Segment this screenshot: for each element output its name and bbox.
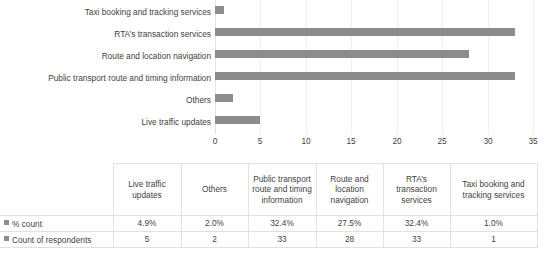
table-cell: 2.0% xyxy=(181,216,248,232)
x-tick-label: 20 xyxy=(392,136,401,147)
legend-swatch-icon xyxy=(4,236,9,241)
table-cell: 1.0% xyxy=(450,216,537,232)
category-label: Route and location navigation xyxy=(0,51,211,61)
category-label: Taxi booking and tracking services xyxy=(0,7,211,17)
table-cell: 5 xyxy=(113,232,181,248)
table-header-row: Live traffic updates Others Public trans… xyxy=(0,164,537,216)
gridline-0 xyxy=(215,0,216,134)
bar-route-and-location-navigation xyxy=(215,50,469,58)
table-row: Count of respondents 5 2 33 28 33 1 xyxy=(0,232,537,248)
bar-chart: Taxi booking and tracking services RTA’s… xyxy=(0,0,547,155)
table-cell: 27.5% xyxy=(316,216,383,232)
table-row-header-count-of-respondents: Count of respondents xyxy=(0,232,113,248)
x-axis-tick-labels: 0 5 10 15 20 25 30 35 xyxy=(215,136,533,152)
table-cell: 4.9% xyxy=(113,216,181,232)
gridline-5 xyxy=(260,0,261,134)
data-table: Live traffic updates Others Public trans… xyxy=(0,163,538,248)
x-tick-label: 10 xyxy=(301,136,310,147)
gridline-15 xyxy=(351,0,352,134)
bar-others xyxy=(215,94,233,102)
x-tick-label: 15 xyxy=(346,136,355,147)
table-column-header: RTA’s transaction services xyxy=(383,164,450,216)
category-label: Public transport route and timing inform… xyxy=(0,73,211,83)
table-row: % count 4.9% 2.0% 32.4% 27.5% 32.4% 1.0% xyxy=(0,216,537,232)
table-column-header: Public transport route and timing inform… xyxy=(248,164,316,216)
x-tick-label: 5 xyxy=(258,136,263,147)
legend-swatch-icon xyxy=(4,220,9,225)
category-label: Others xyxy=(0,95,211,105)
bar-public-transport-route-and-timing-information xyxy=(215,72,515,80)
table-cell: 2 xyxy=(181,232,248,248)
gridline-25 xyxy=(442,0,443,134)
plot-area xyxy=(215,0,533,134)
gridline-35 xyxy=(533,0,534,134)
category-label: RTA’s transaction services xyxy=(0,29,211,39)
gridline-30 xyxy=(488,0,489,134)
bar-live-traffic-updates xyxy=(215,116,260,124)
table-column-header: Live traffic updates xyxy=(113,164,181,216)
table-cell: 32.4% xyxy=(383,216,450,232)
table-column-header: Taxi booking and tracking services xyxy=(450,164,537,216)
gridline-10 xyxy=(306,0,307,134)
table-row-header-label: Count of respondents xyxy=(12,235,91,245)
table-cell: 33 xyxy=(383,232,450,248)
category-axis-labels: Taxi booking and tracking services RTA’s… xyxy=(0,0,211,134)
x-tick-label: 35 xyxy=(528,136,537,147)
gridline-20 xyxy=(397,0,398,134)
table-cell: 28 xyxy=(316,232,383,248)
table-cell: 1 xyxy=(450,232,537,248)
category-label: Live traffic updates xyxy=(0,117,211,127)
bar-rta-transaction-services xyxy=(215,28,515,36)
table-column-header: Others xyxy=(181,164,248,216)
table-cell: 32.4% xyxy=(248,216,316,232)
table-row-header-label: % count xyxy=(12,219,42,229)
table-corner-cell xyxy=(0,164,113,216)
table-cell: 33 xyxy=(248,232,316,248)
bar-taxi-booking-and-tracking-services xyxy=(215,6,224,14)
x-tick-label: 25 xyxy=(437,136,446,147)
table-column-header: Route and location navigation xyxy=(316,164,383,216)
x-tick-label: 30 xyxy=(483,136,492,147)
x-tick-label: 0 xyxy=(213,136,218,147)
table-row-header-percent-count: % count xyxy=(0,216,113,232)
